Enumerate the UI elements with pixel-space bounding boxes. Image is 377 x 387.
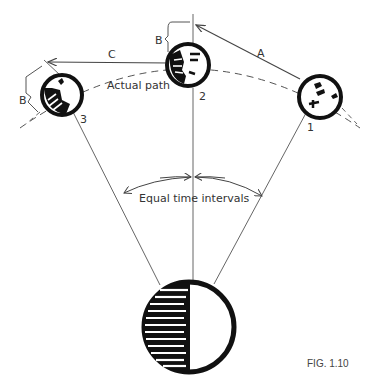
figure-caption: FIG. 1.10 [307, 358, 349, 369]
actual-path-label: Actual path [107, 79, 170, 92]
equal-time-label: Equal time intervals [139, 192, 249, 205]
arrow-c [48, 62, 170, 63]
label-a: A [257, 47, 265, 60]
moon-2-label: 2 [199, 90, 206, 103]
label-b-left: B [19, 94, 27, 107]
label-b-top: B [155, 34, 163, 47]
arrow-a [196, 25, 300, 79]
interval-arc-left [124, 177, 191, 193]
moon-3-label: 3 [80, 113, 87, 126]
moon-2 [167, 44, 209, 86]
earth [144, 282, 234, 372]
moon-1 [299, 76, 341, 118]
bracket-b-left [26, 66, 42, 112]
label-c: C [108, 48, 116, 61]
orbit-diagram: C A B B Actual path 3 2 1 E [0, 0, 377, 387]
moon-3 [42, 75, 82, 115]
tangent-line-3-bottom [26, 112, 40, 124]
moon-1-label: 1 [307, 121, 314, 134]
